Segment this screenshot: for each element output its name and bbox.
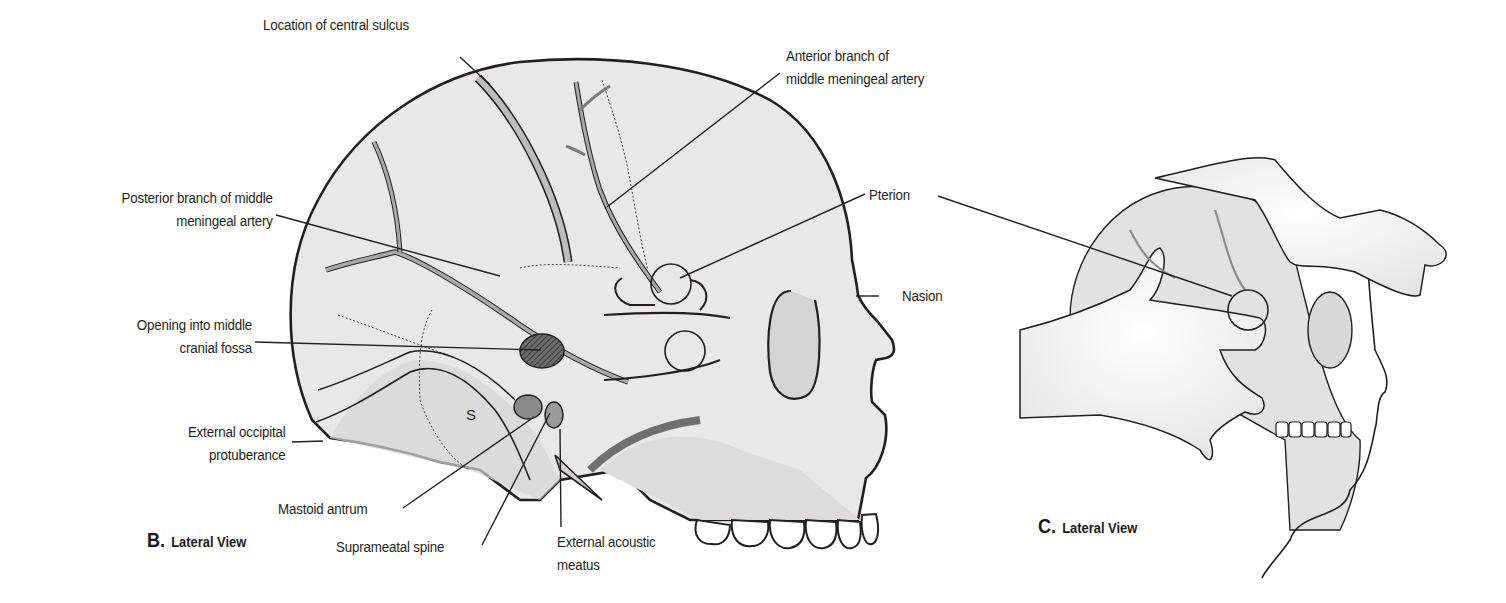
caption-panel-b: B. Lateral View [147, 528, 246, 552]
label-external-acoustic-meatus: External acoustic meatus [557, 530, 656, 576]
caption-panel-c: C. Lateral View [1038, 514, 1137, 538]
label-central-sulcus: Location of central sulcus [263, 13, 409, 36]
sigmoid-sinus-marker: S [466, 406, 476, 423]
label-mastoid-antrum: Mastoid antrum [278, 497, 367, 520]
skull-lateral-view-illustration: S [0, 0, 1506, 603]
label-nasion: Nasion [902, 284, 942, 307]
label-posterior-branch-mma: Posterior branch of middle meningeal art… [122, 186, 273, 232]
label-pterion: Pterion [869, 183, 910, 206]
middle-cranial-fossa-opening [520, 334, 564, 368]
orbit [768, 291, 819, 399]
label-suprameatal-spine: Suprameatal spine [336, 535, 444, 558]
label-opening-middle-cranial-fossa: Opening into middle cranial fossa [137, 313, 252, 359]
panel-b-skull: S [291, 59, 894, 548]
cranium-outline [291, 59, 894, 520]
label-anterior-branch-mma: Anterior branch of middle meningeal arte… [786, 44, 924, 90]
label-external-occipital-protuberance: External occipital protuberance [188, 420, 286, 466]
